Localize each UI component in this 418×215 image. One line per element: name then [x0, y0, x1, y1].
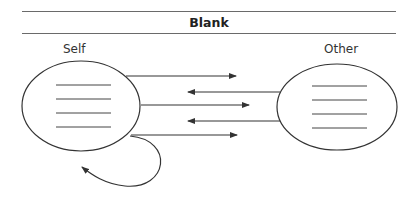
self-node — [22, 61, 140, 151]
other-node — [277, 64, 397, 150]
self-loop-arrow — [82, 136, 161, 186]
diagram-canvas — [0, 0, 418, 215]
